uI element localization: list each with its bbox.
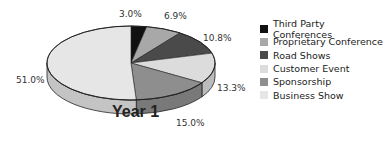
label-third-party: 3.0% bbox=[119, 9, 142, 19]
label-business-show: 51.0% bbox=[16, 75, 45, 85]
legend-swatch bbox=[260, 38, 268, 46]
legend: Third Party Conferences Proprietary Conf… bbox=[260, 22, 385, 102]
legend-swatch bbox=[260, 65, 268, 73]
label-sponsorship: 15.0% bbox=[176, 118, 205, 128]
legend-item: Proprietary Conference bbox=[260, 35, 385, 48]
chart-title: Year 1 bbox=[112, 103, 159, 121]
legend-item: Road Shows bbox=[260, 49, 385, 62]
legend-swatch bbox=[260, 78, 268, 86]
label-customer-event: 13.3% bbox=[217, 83, 246, 93]
legend-item: Customer Event bbox=[260, 62, 385, 75]
legend-item: Sponsorship bbox=[260, 75, 385, 88]
legend-swatch bbox=[260, 51, 268, 59]
label-road-shows: 10.8% bbox=[203, 33, 232, 43]
legend-swatch bbox=[260, 25, 268, 33]
legend-item: Third Party Conferences bbox=[260, 22, 385, 35]
legend-swatch bbox=[260, 91, 268, 99]
label-proprietary: 6.9% bbox=[164, 11, 187, 21]
legend-item: Business Show bbox=[260, 88, 385, 101]
